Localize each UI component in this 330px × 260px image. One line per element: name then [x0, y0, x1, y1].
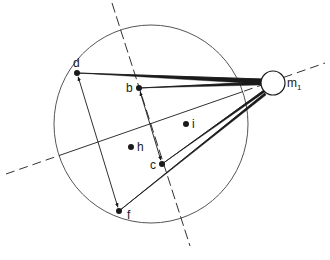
physics-diagram: m1 dbihcf [0, 0, 330, 260]
point-h-dot [128, 144, 134, 150]
point-i-label: i [192, 117, 195, 131]
point-f-label: f [127, 208, 131, 222]
point-f-dot [116, 208, 122, 214]
point-c-dot [159, 161, 165, 167]
arrow-d-f [78, 77, 118, 207]
mass-m1-circle [261, 71, 285, 95]
point-h-label: h [137, 140, 144, 154]
point-i-dot [183, 121, 189, 127]
point-c-label: c [150, 158, 156, 172]
point-d-label: d [73, 56, 80, 70]
mass-label: m1 [287, 76, 302, 92]
points-group: dbihcf [73, 56, 195, 222]
steep-axis [112, 3, 190, 246]
ray-c [162, 90, 264, 164]
point-d-dot [74, 70, 80, 76]
point-b-dot [136, 85, 142, 91]
point-b-label: b [126, 81, 133, 95]
